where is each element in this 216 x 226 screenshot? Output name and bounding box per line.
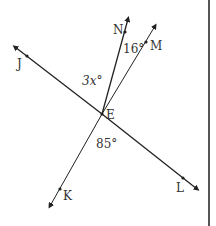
point-l-dot xyxy=(181,176,184,179)
label-m: M xyxy=(150,39,162,53)
line-mk xyxy=(50,114,102,206)
label-j: J xyxy=(15,57,22,71)
point-n-dot xyxy=(123,30,126,33)
point-k-dot xyxy=(58,187,61,190)
geometry-diagram: J N M E K L 16° 3x° 85° xyxy=(0,0,216,226)
label-n: N xyxy=(113,23,124,37)
line-mk xyxy=(102,26,155,114)
angle-label-nem: 16° xyxy=(123,42,144,56)
angle-label-kel: 85° xyxy=(96,137,117,151)
label-k: K xyxy=(63,189,73,203)
label-e: E xyxy=(106,108,115,122)
point-e-dot xyxy=(100,112,103,115)
point-j-dot xyxy=(25,54,28,57)
label-l: L xyxy=(176,181,184,195)
angle-label-jen: 3x° xyxy=(82,74,102,88)
point-m-dot xyxy=(144,40,147,43)
right-border xyxy=(208,0,210,226)
